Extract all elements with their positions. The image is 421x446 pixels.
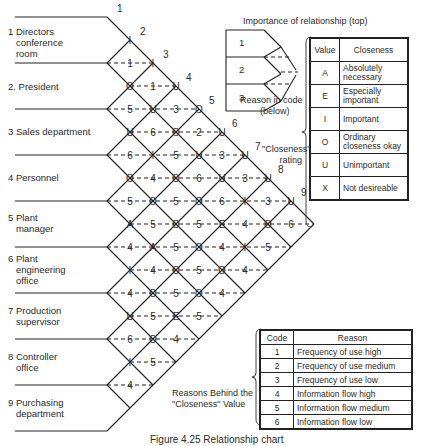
- table-row: EEspecially important: [310, 85, 408, 108]
- table-row: IImportant: [310, 108, 408, 131]
- closeness-rating-label: "Closeness" rating: [262, 144, 310, 166]
- relationship-cell: O: [260, 219, 276, 230]
- relationship-cell: I: [122, 35, 138, 46]
- header-closeness: Closeness: [340, 38, 409, 62]
- relationship-cell: 5: [145, 311, 161, 322]
- relationship-cell: 5: [122, 196, 138, 207]
- relationship-cell: U: [214, 173, 230, 184]
- relationship-cell: I: [122, 357, 138, 368]
- relationship-cell: 4: [122, 288, 138, 299]
- reason-table: Code Reason 1Frequency of use high 2Freq…: [259, 329, 413, 430]
- figure-caption: Figure 4.25 Relationship chart: [150, 434, 283, 445]
- edge-number: 6: [232, 118, 238, 129]
- relationship-cell: O: [168, 219, 184, 230]
- relationship-cell: A: [145, 242, 161, 253]
- relationship-cell: 5: [122, 104, 138, 115]
- department-label: 8 Controller office: [8, 351, 57, 373]
- relationship-cell: O: [191, 242, 207, 253]
- relationship-cell: 6: [214, 196, 230, 207]
- relationship-cell: I: [145, 58, 161, 69]
- table-row: 2Frequency of use medium: [260, 359, 412, 373]
- relationship-cell: 4: [122, 380, 138, 391]
- relationship-cell: U: [191, 150, 207, 161]
- relationship-cell: 4: [237, 219, 253, 230]
- relationship-cell: O: [191, 196, 207, 207]
- relationship-cell: O: [191, 104, 207, 115]
- relationship-cell: 6: [145, 127, 161, 138]
- relationship-cell: 6: [191, 173, 207, 184]
- relationship-cell: 5: [168, 196, 184, 207]
- relationship-cell: 3: [168, 104, 184, 115]
- relationship-cell: U: [214, 127, 230, 138]
- relationship-cell: I: [145, 150, 161, 161]
- closeness-table: Value Closeness AAbsolutely necessary EE…: [309, 37, 409, 201]
- relationship-cell: 6: [122, 150, 138, 161]
- relationship-cell: I: [237, 242, 253, 253]
- relationship-cell: O: [122, 173, 138, 184]
- relationship-cell: 3: [237, 173, 253, 184]
- table-row: 1Frequency of use high: [260, 345, 412, 359]
- relationship-cell: 4: [168, 334, 184, 345]
- relationship-cell: 4: [214, 288, 230, 299]
- relationship-cell: O: [145, 334, 161, 345]
- relationship-cell: 5: [191, 265, 207, 276]
- relationship-cell: O: [214, 265, 230, 276]
- relationship-cell: A: [122, 219, 138, 230]
- edge-number: 4: [186, 72, 192, 83]
- table-row: 4Information flow high: [260, 387, 412, 401]
- relationship-cell: 5: [145, 357, 161, 368]
- relationship-cell: I: [237, 196, 253, 207]
- header-code: Code: [260, 330, 294, 345]
- relationship-cell: E: [214, 219, 230, 230]
- relationship-cell: U: [260, 173, 276, 184]
- relationship-cell: 5: [191, 311, 207, 322]
- relationship-cell: U: [145, 104, 161, 115]
- reason-code-label: Reason in code (below): [240, 95, 303, 117]
- relationship-cell: O: [168, 127, 184, 138]
- relationship-cell: 3: [260, 196, 276, 207]
- relationship-cell: U: [122, 127, 138, 138]
- relationship-cell: 5: [191, 219, 207, 230]
- relationship-cell: 4: [214, 242, 230, 253]
- relationship-cell: U: [122, 311, 138, 322]
- relationship-cell: U: [283, 196, 299, 207]
- reasons-label: Reasons Behind the "Closeness" Value: [172, 388, 253, 410]
- edge-number: 7: [255, 141, 261, 152]
- table-row: XNot desireable: [310, 177, 408, 201]
- table-row: AAbsolutely necessary: [310, 62, 408, 85]
- header-reason: Reason: [294, 330, 413, 345]
- department-label: 3 Sales department: [8, 126, 90, 137]
- edge-number: 2: [140, 26, 146, 37]
- relationship-cell: O: [191, 288, 207, 299]
- department-label: 9 Purchasing department: [8, 397, 64, 419]
- relationship-cell: 4: [145, 265, 161, 276]
- department-label: 2. President: [8, 81, 59, 92]
- relationship-cell: I: [122, 265, 138, 276]
- relationship-cell: 4: [122, 242, 138, 253]
- relationship-cell: O: [145, 196, 161, 207]
- edge-number: 3: [163, 49, 169, 60]
- table-row: 6Information flow low: [260, 415, 412, 430]
- relationship-cell: U: [168, 81, 184, 92]
- relationship-cell: O: [122, 81, 138, 92]
- relationship-cell: O: [168, 265, 184, 276]
- relationship-cell: 5: [260, 242, 276, 253]
- relationship-cell: 2: [191, 127, 207, 138]
- department-label: 1 Directors conference room: [8, 26, 63, 59]
- legend-row-1: 1: [239, 37, 244, 48]
- edge-number: 5: [209, 95, 215, 106]
- importance-label: Importance of relationship (top): [243, 16, 368, 27]
- legend-row-2: 2: [239, 64, 244, 75]
- relationship-cell: 5: [168, 242, 184, 253]
- department-label: 7 Production supervisor: [8, 305, 61, 327]
- relationship-cell: 6: [283, 219, 299, 230]
- relationship-cell: O: [145, 288, 161, 299]
- legend-row-3: 3: [239, 92, 244, 103]
- department-label: 4 Personnel: [8, 172, 59, 183]
- relationship-cell: 5: [168, 150, 184, 161]
- relationship-cell: 5: [168, 288, 184, 299]
- relationship-cell: 4: [145, 173, 161, 184]
- relationship-cell: 1: [145, 81, 161, 92]
- edge-number: 1: [117, 3, 123, 14]
- relationship-cell: 1: [122, 58, 138, 69]
